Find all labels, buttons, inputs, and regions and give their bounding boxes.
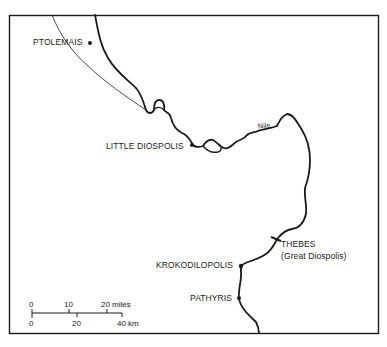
scale-miles-10: 10 xyxy=(64,300,73,309)
nile-label: Nile xyxy=(257,120,271,132)
pathyris-label: PATHYRIS xyxy=(190,293,232,303)
pathyris-marker xyxy=(237,296,241,300)
scale-miles-0: 0 xyxy=(29,300,33,309)
ptolemais-marker xyxy=(88,41,92,45)
scale-miles-20: 20 miles xyxy=(101,300,131,309)
scale-km-20: 20 xyxy=(72,319,81,328)
krokodilopolis-marker xyxy=(239,264,243,268)
ptolemais-label: PTOLEMAIS xyxy=(33,37,82,47)
nile-river xyxy=(95,15,310,333)
little-diospolis-label: LITTLE DIOSPOLIS xyxy=(106,141,184,151)
canal-line xyxy=(52,15,146,110)
thebes-subtitle: (Great Diospolis) xyxy=(281,251,346,261)
scale-bar xyxy=(32,309,122,318)
scale-km-0: 0 xyxy=(29,319,33,328)
scale-km-40: 40 km xyxy=(117,319,139,328)
krokodilopolis-label: KROKODILOPOLIS xyxy=(156,260,233,270)
little-diospolis-marker xyxy=(190,143,194,147)
map-frame xyxy=(10,16,379,334)
river-island xyxy=(154,107,164,110)
thebes-label: THEBES xyxy=(281,239,316,249)
